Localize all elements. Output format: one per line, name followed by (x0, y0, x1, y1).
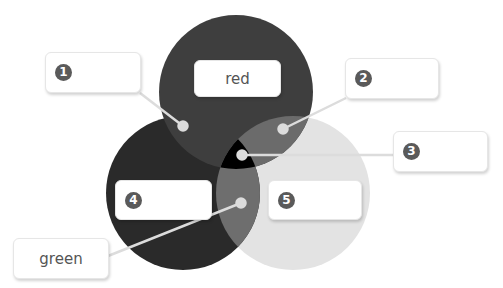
label-box-red[interactable]: red (194, 60, 281, 97)
number-badge-icon: 3 (403, 143, 420, 160)
number-badge-icon: 2 (355, 70, 372, 87)
label-box-3[interactable]: 3 (393, 131, 488, 172)
label-text: green (14, 250, 108, 268)
label-box-green[interactable]: green (13, 238, 109, 279)
label-box-1[interactable]: 1 (45, 52, 141, 93)
label-box-4[interactable]: 4 (115, 180, 212, 220)
number-badge-icon: 1 (55, 64, 72, 81)
number-badge-icon: 5 (278, 192, 295, 209)
pointer-dot (279, 125, 288, 134)
pointer-dot (238, 151, 247, 160)
pointer-dot (237, 199, 246, 208)
pointer-dot (179, 122, 188, 131)
number-badge-icon: 4 (125, 192, 142, 209)
label-box-2[interactable]: 2 (345, 58, 439, 99)
label-text: red (195, 70, 280, 88)
label-box-5[interactable]: 5 (268, 180, 362, 220)
